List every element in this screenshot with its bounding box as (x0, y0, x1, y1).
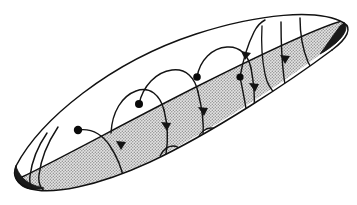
equilibrium-dot-p1 (74, 126, 82, 134)
equilibrium-dot-p4 (236, 73, 243, 80)
equilibrium-dot-p3 (193, 73, 201, 81)
figure-container: Spiralling flow on a lens-shaped invaria… (0, 0, 357, 205)
equilibrium-dot-p2 (135, 100, 143, 108)
flow-diagram-svg (0, 0, 357, 205)
